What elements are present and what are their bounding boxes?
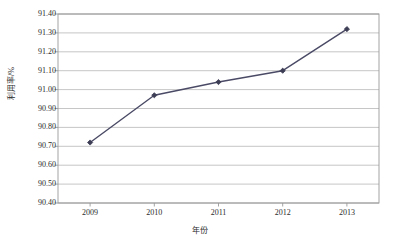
x-axis-tick-label: 2013: [327, 208, 367, 217]
y-axis-tick-labels: 91.4091.3091.2091.1091.0090.9090.8090.70…: [18, 0, 56, 248]
y-axis-tick-label: 91.40: [22, 10, 56, 18]
x-axis-tick-label: 2009: [70, 208, 110, 217]
x-tick-marks: [90, 203, 347, 207]
y-axis-tick-label: 91.30: [22, 29, 56, 37]
y-axis-tick-label: 90.60: [22, 161, 56, 169]
y-axis-tick-label: 91.00: [22, 86, 56, 94]
y-axis-tick-label: 90.90: [22, 105, 56, 113]
x-axis-tick-label: 2010: [134, 208, 174, 217]
y-axis-tick-label: 90.40: [22, 199, 56, 207]
y-axis-title: 利用率/%: [5, 52, 16, 116]
y-axis-tick-label: 90.70: [22, 142, 56, 150]
x-axis-tick-label: 2012: [263, 208, 303, 217]
x-axis-title: 年份: [0, 224, 399, 235]
y-axis-tick-label: 91.20: [22, 48, 56, 56]
y-axis-tick-label: 91.10: [22, 67, 56, 75]
y-axis-tick-label: 90.50: [22, 180, 56, 188]
y-axis-tick-label: 90.80: [22, 123, 56, 131]
line-chart: 利用率/% 91.4091.3091.2091.1091.0090.9090.8…: [0, 0, 399, 248]
x-axis-tick-label: 2011: [199, 208, 239, 217]
